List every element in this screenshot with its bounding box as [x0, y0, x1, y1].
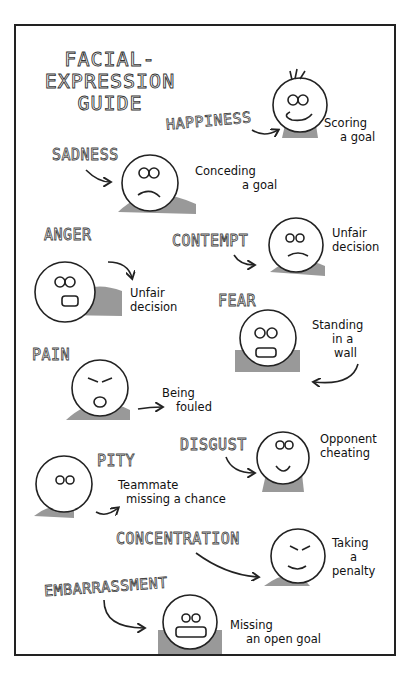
label-anger: ANGER	[44, 226, 92, 244]
caption-sadness: Concedinga goal	[195, 164, 277, 192]
label-sadness: SADNESS	[52, 146, 119, 164]
caption-fear: Standingin awall	[312, 318, 363, 360]
caption-embarrassment: Missingan open goal	[230, 618, 321, 646]
caption-happiness: Scoringa goal	[324, 116, 375, 144]
label-concentration: CONCENTRATION	[116, 530, 240, 548]
label-contempt: CONTEMPT	[172, 232, 248, 250]
caption-pain: Beingfouled	[162, 386, 212, 414]
caption-pity: Teammatemissing a chance	[118, 478, 226, 506]
label-pain: PAIN	[32, 346, 70, 364]
label-disgust: DISGUST	[180, 436, 247, 454]
caption-concentration: Takingapenalty	[332, 536, 375, 578]
caption-contempt: Unfairdecision	[332, 226, 379, 254]
label-pity: PITY	[97, 452, 135, 470]
caption-anger: Unfairdecision	[130, 286, 177, 314]
caption-disgust: Opponentcheating	[320, 432, 377, 460]
label-fear: FEAR	[218, 292, 256, 310]
